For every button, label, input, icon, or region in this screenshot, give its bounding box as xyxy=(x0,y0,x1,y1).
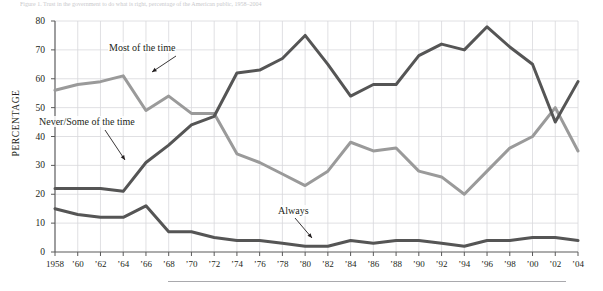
x-tick-label: ’86 xyxy=(363,259,383,269)
x-tick-label: ’96 xyxy=(477,259,497,269)
annotation-arrow-never-some-of-the-time-line xyxy=(105,130,125,160)
y-tick-label: 70 xyxy=(23,45,45,55)
x-tick-label: ’70 xyxy=(181,259,201,269)
y-axis-title: PERCENTAGE xyxy=(11,68,21,178)
x-tick-label: ’04 xyxy=(568,259,588,269)
x-tick-label: ’76 xyxy=(250,259,270,269)
x-tick-label: ’80 xyxy=(295,259,315,269)
x-tick-label: ’98 xyxy=(500,259,520,269)
x-tick-label: ’66 xyxy=(136,259,156,269)
x-tick-label: ’78 xyxy=(272,259,292,269)
series-label-most-of-the-time: Most of the time xyxy=(108,42,176,53)
series-label-never-some-of-the-time: Never/Some of the time xyxy=(38,116,136,127)
x-tick-label: ’92 xyxy=(432,259,452,269)
annotation-arrow-most-of-the-time xyxy=(152,56,176,72)
x-tick-label: ’94 xyxy=(454,259,474,269)
y-tick-label: 40 xyxy=(23,132,45,142)
x-tick-label: ’84 xyxy=(341,259,361,269)
plot-area xyxy=(0,0,603,291)
x-tick-label: ’00 xyxy=(523,259,543,269)
series-label-always: Always xyxy=(277,205,310,216)
annotation-arrow-always xyxy=(295,218,312,238)
annotation-arrow-never-some-of-the-time xyxy=(105,130,125,160)
y-tick-label: 30 xyxy=(23,160,45,170)
y-tick-label: 10 xyxy=(23,218,45,228)
x-tick-label: ’82 xyxy=(318,259,338,269)
x-tick-label: ’62 xyxy=(90,259,110,269)
bottom-divider xyxy=(168,281,566,282)
series-line-always xyxy=(55,206,578,246)
x-tick-label: ’64 xyxy=(113,259,133,269)
y-tick-label: 60 xyxy=(23,74,45,84)
chart-figure: Figure 1. Trust in the government to do … xyxy=(0,0,603,291)
x-tick-label: ’88 xyxy=(386,259,406,269)
y-tick-label: 0 xyxy=(23,247,45,257)
y-tick-label: 50 xyxy=(23,103,45,113)
annotation-arrow-most-of-the-time-head xyxy=(152,68,157,72)
x-tick-label: ’72 xyxy=(204,259,224,269)
x-tick-label: ’90 xyxy=(409,259,429,269)
x-tick-label: ’68 xyxy=(159,259,179,269)
x-tick-label: ’60 xyxy=(68,259,88,269)
y-tick-label: 20 xyxy=(23,189,45,199)
x-tick-label: ’74 xyxy=(227,259,247,269)
figure-caption: Figure 1. Trust in the government to do … xyxy=(20,0,580,9)
y-tick-label: 80 xyxy=(23,16,45,26)
x-tick-label: ’02 xyxy=(545,259,565,269)
x-tick-label: 1958 xyxy=(40,259,70,269)
